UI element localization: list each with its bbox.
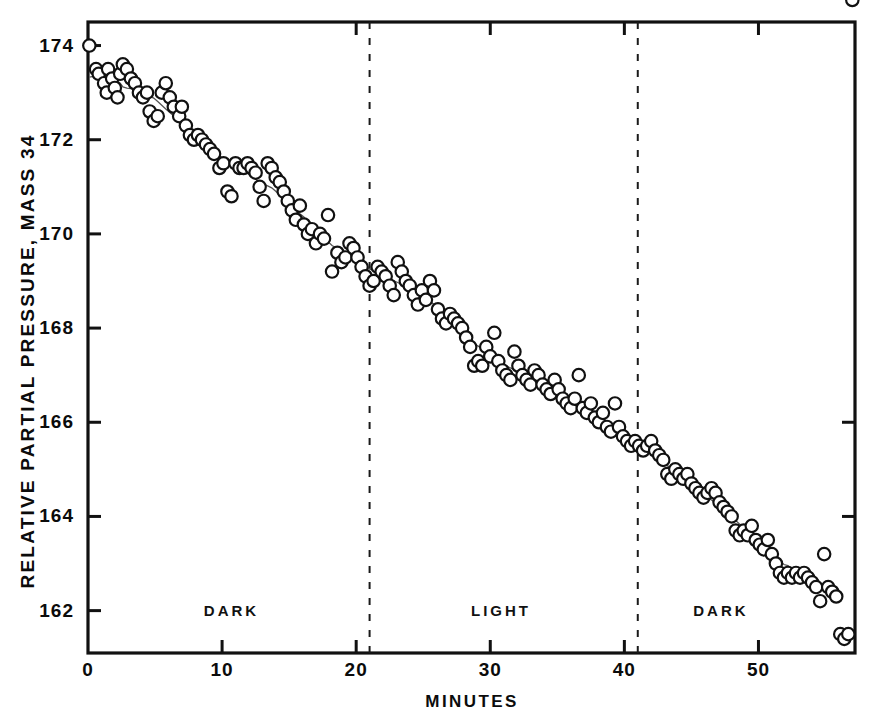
y-tick-label: 162	[18, 600, 74, 622]
data-point	[141, 86, 153, 98]
x-tick-label: 50	[728, 659, 788, 681]
region-label-light: LIGHT	[421, 602, 581, 619]
data-point	[818, 548, 830, 560]
data-point	[111, 91, 123, 103]
region-label-dark: DARK	[641, 602, 801, 619]
data-point	[508, 345, 520, 357]
data-point	[257, 195, 269, 207]
transition-dashed-lines	[370, 22, 638, 653]
x-tick-label: 40	[594, 659, 654, 681]
data-point	[488, 327, 500, 339]
data-point	[830, 590, 842, 602]
data-point	[504, 374, 516, 386]
data-point	[152, 110, 164, 122]
data-point	[814, 595, 826, 607]
data-point	[609, 397, 621, 409]
y-tick-label: 164	[18, 505, 74, 527]
data-point	[225, 190, 237, 202]
data-point	[657, 454, 669, 466]
y-tick-label: 172	[18, 129, 74, 151]
x-tick-label: 0	[58, 659, 118, 681]
x-tick-label: 30	[460, 659, 520, 681]
data-point	[597, 407, 609, 419]
data-point	[388, 289, 400, 301]
data-point	[725, 510, 737, 522]
figure-container: RELATIVE PARTIAL PRESSURE, MASS 34 MINUT…	[0, 0, 878, 722]
data-point	[160, 77, 172, 89]
data-point	[810, 581, 822, 593]
y-tick-label: 168	[18, 317, 74, 339]
y-tick-label: 170	[18, 223, 74, 245]
data-point	[842, 628, 854, 640]
connecting-trend-line	[89, 75, 812, 588]
data-point	[83, 39, 95, 51]
data-point	[585, 397, 597, 409]
data-point	[176, 101, 188, 113]
y-tick-label: 174	[18, 35, 74, 57]
y-tick-label: 166	[18, 411, 74, 433]
data-point	[573, 369, 585, 381]
region-label-dark: DARK	[151, 602, 311, 619]
data-point	[318, 232, 330, 244]
data-point-markers	[83, 0, 858, 645]
data-point	[762, 534, 774, 546]
x-tick-label: 10	[192, 659, 252, 681]
data-point	[746, 520, 758, 532]
data-point	[249, 166, 261, 178]
data-point	[253, 181, 265, 193]
data-point	[217, 157, 229, 169]
x-tick-label: 20	[326, 659, 386, 681]
data-point	[428, 284, 440, 296]
data-point	[464, 341, 476, 353]
data-point	[846, 0, 858, 6]
data-point	[294, 199, 306, 211]
data-point	[322, 209, 334, 221]
